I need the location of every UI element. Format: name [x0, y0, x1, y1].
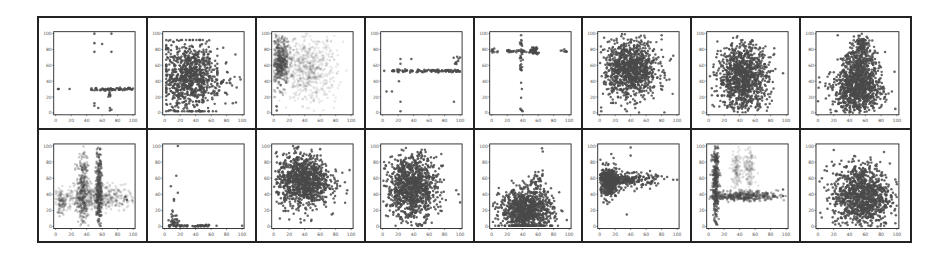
- y-tick-label: 80: [373, 159, 379, 164]
- x-tick-label: 40: [628, 231, 634, 236]
- x-tick-label: 20: [504, 231, 510, 236]
- scatter-plot: 020406080100020406080100: [801, 18, 910, 128]
- x-tick-label: 60: [99, 231, 105, 236]
- x-tick-label: 60: [317, 231, 323, 236]
- scatter-plot: 020406080100020406080100: [475, 130, 582, 242]
- x-tick-label: 60: [99, 118, 105, 123]
- x-tick-label: 40: [847, 231, 853, 236]
- x-tick-label: 0: [381, 231, 384, 236]
- y-tick-label: 60: [699, 63, 705, 68]
- y-tick-label: 0: [158, 224, 161, 229]
- scatter-plot: 020406080100020406080100: [475, 18, 582, 128]
- x-tick-label: 0: [54, 118, 57, 123]
- y-tick-label: 60: [264, 63, 270, 68]
- x-tick-label: 60: [753, 118, 759, 123]
- x-tick-label: 0: [163, 231, 166, 236]
- y-tick-label: 20: [590, 208, 596, 213]
- scatter-panel-8: 020406080100020406080100: [801, 18, 910, 130]
- y-tick-label: 80: [590, 159, 596, 164]
- x-tick-label: 60: [317, 118, 323, 123]
- scatter-plot: 020406080100020406080100: [257, 130, 364, 242]
- y-tick-label: 40: [373, 191, 379, 196]
- x-tick-label: 40: [737, 118, 743, 123]
- x-tick-label: 100: [564, 118, 573, 123]
- scatter-plot: 020406080100020406080100: [692, 130, 799, 242]
- scatter-plot: 020406080100020406080100: [583, 18, 690, 128]
- x-tick-label: 20: [613, 118, 619, 123]
- scatter-panel-9: 020406080100020406080100: [39, 130, 148, 242]
- x-tick-label: 60: [426, 118, 432, 123]
- y-tick-label: 80: [155, 159, 161, 164]
- y-tick-label: 0: [484, 110, 487, 115]
- x-tick-label: 60: [535, 118, 541, 123]
- x-tick-label: 40: [84, 231, 90, 236]
- scatter-panel-16: 020406080100020406080100: [801, 130, 910, 242]
- y-tick-label: 60: [808, 175, 814, 180]
- x-tick-label: 0: [599, 118, 602, 123]
- x-tick-label: 40: [628, 118, 634, 123]
- y-tick-label: 0: [267, 110, 270, 115]
- x-tick-label: 80: [550, 118, 556, 123]
- y-tick-label: 20: [373, 208, 379, 213]
- x-tick-label: 80: [333, 231, 339, 236]
- y-tick-label: 40: [590, 79, 596, 84]
- x-tick-label: 80: [115, 118, 121, 123]
- y-tick-label: 20: [699, 95, 705, 100]
- x-tick-label: 100: [347, 118, 356, 123]
- y-tick-label: 60: [373, 63, 379, 68]
- x-tick-label: 40: [410, 231, 416, 236]
- x-tick-label: 20: [831, 231, 837, 236]
- x-tick-label: 0: [272, 118, 275, 123]
- y-tick-label: 0: [702, 224, 705, 229]
- x-tick-label: 80: [659, 118, 665, 123]
- scatter-plot: 020406080100020406080100: [148, 18, 255, 128]
- y-tick-label: 100: [370, 31, 379, 36]
- y-tick-label: 80: [373, 47, 379, 52]
- y-tick-label: 20: [155, 208, 161, 213]
- y-tick-label: 20: [46, 95, 52, 100]
- x-tick-label: 40: [519, 231, 525, 236]
- y-tick-label: 20: [264, 95, 270, 100]
- x-tick-label: 40: [302, 231, 308, 236]
- y-tick-label: 20: [590, 95, 596, 100]
- y-tick-label: 80: [264, 47, 270, 52]
- y-tick-label: 100: [43, 31, 52, 36]
- x-tick-label: 0: [707, 118, 710, 123]
- y-tick-label: 0: [49, 110, 52, 115]
- x-tick-label: 100: [782, 231, 791, 236]
- x-tick-label: 20: [286, 231, 292, 236]
- y-tick-label: 0: [484, 224, 487, 229]
- scatter-plot: 020406080100020406080100: [39, 130, 146, 242]
- y-tick-label: 40: [264, 191, 270, 196]
- x-tick-label: 0: [817, 231, 820, 236]
- x-tick-label: 100: [347, 231, 356, 236]
- x-tick-label: 0: [817, 118, 820, 123]
- x-tick-label: 0: [707, 231, 710, 236]
- x-tick-label: 20: [722, 118, 728, 123]
- y-tick-label: 20: [46, 208, 52, 213]
- y-tick-label: 60: [155, 63, 161, 68]
- y-tick-label: 20: [699, 208, 705, 213]
- y-tick-label: 0: [267, 224, 270, 229]
- y-tick-label: 100: [370, 143, 379, 148]
- x-tick-label: 20: [395, 118, 401, 123]
- x-tick-label: 0: [381, 118, 384, 123]
- x-tick-label: 60: [535, 231, 541, 236]
- x-tick-label: 0: [163, 118, 166, 123]
- x-tick-label: 40: [302, 118, 308, 123]
- scatter-panel-3: 020406080100020406080100: [257, 18, 366, 130]
- x-tick-label: 40: [193, 231, 199, 236]
- y-tick-label: 0: [158, 110, 161, 115]
- x-tick-label: 60: [208, 231, 214, 236]
- x-tick-label: 20: [722, 231, 728, 236]
- y-tick-label: 100: [696, 143, 705, 148]
- y-tick-label: 0: [375, 110, 378, 115]
- y-tick-label: 100: [261, 143, 270, 148]
- y-tick-label: 0: [49, 224, 52, 229]
- y-tick-label: 100: [152, 143, 161, 148]
- axes-frame: [54, 143, 135, 228]
- y-tick-label: 80: [264, 159, 270, 164]
- y-tick-label: 20: [482, 95, 488, 100]
- x-tick-label: 100: [673, 231, 682, 236]
- x-tick-label: 100: [455, 118, 464, 123]
